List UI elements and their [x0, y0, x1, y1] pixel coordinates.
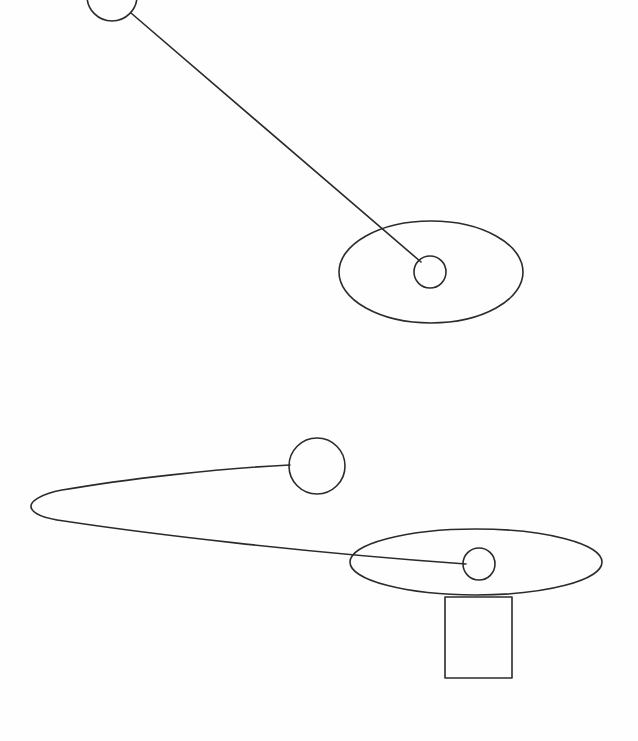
drawing-canvas	[0, 0, 638, 741]
canvas-background	[0, 0, 638, 741]
line-drawing-svg	[0, 0, 638, 741]
